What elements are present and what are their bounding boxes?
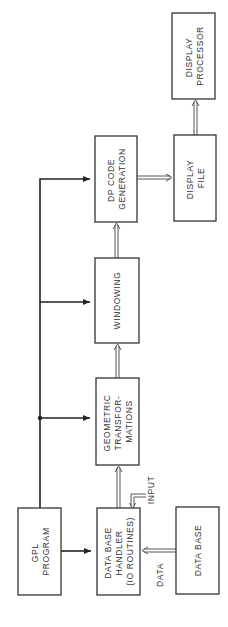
node-label-line: GPL [30,544,40,563]
node-display-file: DISPLAY FILE [174,135,216,221]
svg-text:DATA BASE: DATA BASE [193,525,203,576]
junction-dot [38,416,42,420]
edge-df-to-dp [194,102,197,135]
node-label-line: WINDOWING [112,272,122,330]
node-label-line: DISPLAY [185,160,195,199]
edge-geo-to-win [116,346,119,378]
edge-label-data: DATA [155,563,165,587]
svg-text:DISPLAY PROCESSOR: DISPLAY PROCESSOR [184,26,205,86]
node-label-line: PROGRAM [41,527,51,575]
node-geometric-transformations: GEOMETRIC TRANSFOR- MATIONS [96,378,139,465]
node-label-line: MATIONS [124,400,134,442]
node-label-line: PROCESSOR [195,26,205,86]
edge-gpl-to-dpc [40,179,90,508]
node-gpl-program: GPL PROGRAM [18,508,61,595]
node-label-line: GENERATION [117,148,127,210]
edge-input-to-dbh [131,494,146,506]
svg-text:DP CODE GENERATION: DP CODE GENERATION [106,148,127,210]
edge-dpc-to-df [137,176,170,179]
svg-text:GEOMETRIC TRANSFOR-: GEOMETRIC TRANSFOR- MATIONS [102,392,134,452]
node-dp-code-generation: DP CODE GENERATION [95,136,137,222]
node-display-processor: DISPLAY PROCESSOR [172,13,215,99]
control-lines [38,179,91,551]
node-data-base-handler: DATA BASE HANDLER (IO ROUTINES) [97,508,140,595]
node-label-line: DP CODE [106,159,116,202]
diagram-canvas: GPL PROGRAM DATA BASE HANDLER (IO ROUTIN… [0,0,228,627]
node-label-line: FILE [196,168,206,188]
node-data-base: DATA BASE [176,507,219,594]
edge-db-to-dbh [144,549,176,552]
node-label-line: DATA BASE [103,527,113,578]
svg-text:WINDOWING: WINDOWING [112,272,122,330]
node-label-line: (IO ROUTINES) [125,517,135,586]
node-label-line: DATA BASE [193,525,203,576]
edge-dbh-to-geo [117,468,120,508]
node-windowing: WINDOWING [95,258,139,343]
edge-label-input: INPUT [146,476,156,505]
node-label-line: GEOMETRIC [102,395,112,452]
node-label-line: TRANSFOR- [113,395,123,450]
edge-win-to-dpc [115,225,118,258]
node-label-line: DISPLAY [184,38,194,77]
node-label-line: HANDLER [114,531,124,576]
